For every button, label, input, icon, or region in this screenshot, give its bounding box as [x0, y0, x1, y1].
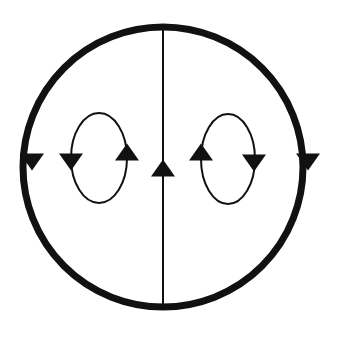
center-arrow-icon — [151, 160, 175, 177]
flow-diagram — [0, 0, 337, 343]
left-loop-right-arrow-icon — [115, 144, 139, 161]
right-loop-left-arrow-icon — [189, 144, 213, 161]
left-loop-left-arrow-icon — [59, 154, 83, 171]
right-loop-right-arrow-icon — [242, 155, 266, 172]
